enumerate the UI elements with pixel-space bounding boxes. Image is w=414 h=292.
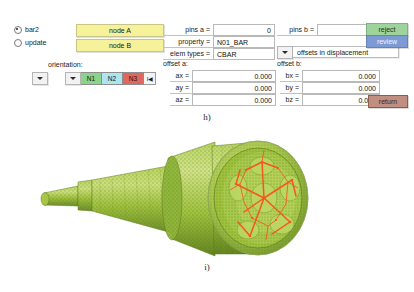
fem-mesh-figure: [0, 126, 414, 266]
orientation-node-n1[interactable]: N1: [81, 72, 102, 85]
orientation-label: orientation:: [48, 61, 83, 68]
field-label-property: property =: [163, 36, 213, 48]
field-label-ay: ay =: [170, 82, 192, 94]
input-ax[interactable]: 0.000: [192, 70, 276, 82]
field-bx: bx = 0.000: [280, 70, 380, 82]
input-bx[interactable]: 0.000: [302, 70, 380, 82]
input-az[interactable]: 0.000: [192, 94, 276, 106]
radio-unselected-icon[interactable]: [14, 39, 22, 47]
caption-h: h): [0, 112, 414, 122]
skip-to-start-icon[interactable]: I◀: [144, 72, 156, 85]
shaft-body: [92, 166, 172, 233]
radio-option-update[interactable]: update: [14, 37, 46, 48]
field-label-elem-types: elem types =: [163, 48, 213, 60]
orientation-node-n3[interactable]: N3: [123, 72, 144, 85]
shaft-collar: [78, 180, 92, 211]
offset-b-title: offset b:: [277, 60, 302, 67]
input-elem-types[interactable]: CBAR: [213, 48, 275, 60]
input-ay[interactable]: 0.000: [192, 82, 276, 94]
radio-selected-icon[interactable]: [14, 26, 22, 34]
field-ay: ay = 0.000: [170, 82, 276, 94]
caption-i: i): [0, 262, 414, 272]
shaft-tip: [41, 186, 78, 206]
radio-label-bar2: bar2: [25, 26, 39, 34]
field-elem-types: elem types = CBAR: [163, 48, 275, 60]
field-label-az: az =: [170, 94, 192, 106]
node-select-buttons: node A node B: [76, 24, 164, 54]
orientation-controls: N1 N2 N3 I◀: [32, 72, 156, 85]
chevron-down-icon: [37, 77, 43, 80]
input-pins-a[interactable]: 0: [213, 24, 275, 36]
return-button[interactable]: return: [368, 95, 408, 108]
bar-element-properties-panel: bar2 update node A node B orientation: N…: [0, 0, 414, 112]
orientation-dropdown-left[interactable]: [32, 72, 48, 85]
field-by: by = 0.000: [280, 82, 380, 94]
chevron-down-icon: [282, 51, 288, 54]
offsets-mode-dropdown[interactable]: [277, 46, 293, 59]
radio-option-bar2[interactable]: bar2: [14, 24, 46, 35]
chevron-down-icon: [70, 77, 76, 80]
input-by[interactable]: 0.000: [302, 82, 380, 94]
field-label-pins-b: pins b =: [277, 24, 317, 36]
joint-housing-barrel: [162, 142, 215, 256]
field-ax: ax = 0.000: [170, 70, 276, 82]
field-label-bx: bx =: [280, 70, 302, 82]
field-pins-b: pins b = 4: [277, 24, 379, 36]
field-label-by: by =: [280, 82, 302, 94]
fem-mesh-svg: [0, 126, 414, 266]
field-label-ax: ax =: [170, 70, 192, 82]
orientation-node-n2[interactable]: N2: [102, 72, 123, 85]
offset-a-title: offset a:: [163, 60, 188, 67]
field-pins-a: pins a = 0: [163, 24, 275, 36]
mode-radio-group: bar2 update: [14, 24, 46, 50]
field-az: az = 0.000: [170, 94, 276, 106]
radio-label-update: update: [25, 39, 46, 47]
field-bz: bz = 0.000: [280, 94, 380, 106]
orientation-node-dropdown[interactable]: [65, 72, 81, 85]
node-b-button[interactable]: node B: [76, 39, 164, 52]
input-property[interactable]: N01_BAR: [213, 36, 275, 48]
field-label-bz: bz =: [280, 94, 302, 106]
review-button[interactable]: review: [366, 35, 408, 48]
field-property: property = N01_BAR: [163, 36, 275, 48]
field-label-pins-a: pins a =: [163, 24, 213, 36]
node-a-button[interactable]: node A: [76, 24, 164, 37]
